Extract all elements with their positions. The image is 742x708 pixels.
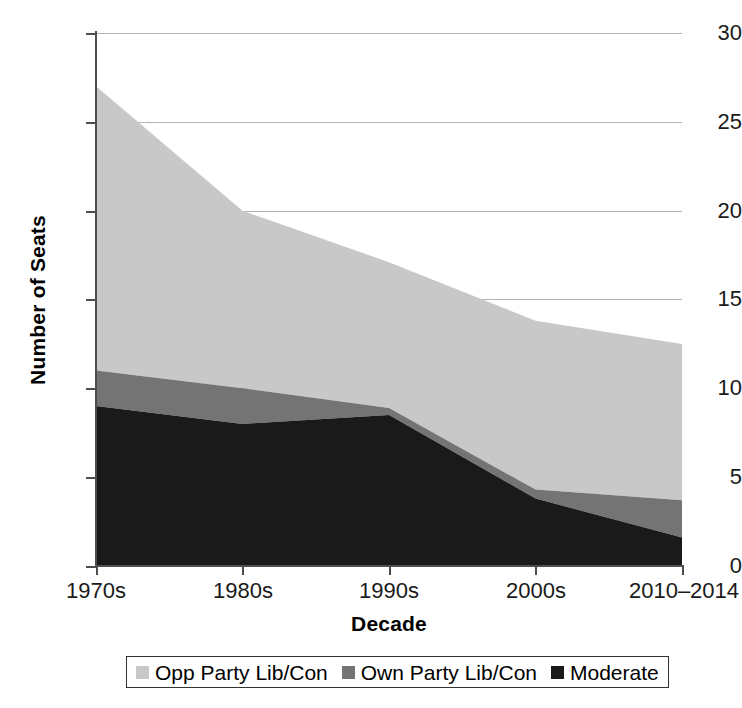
y-tick-mark-30 bbox=[86, 33, 96, 35]
x-tick-mark-1970s bbox=[96, 566, 98, 575]
legend-label-own-party-lib-con: Own Party Lib/Con bbox=[361, 662, 537, 683]
chart-legend: Opp Party Lib/Con Own Party Lib/Con Mode… bbox=[126, 656, 669, 688]
y-tick-label-10: 10 bbox=[664, 375, 742, 401]
y-tick-mark-25 bbox=[86, 122, 96, 124]
x-tick-mark-1980s bbox=[242, 566, 244, 575]
y-tick-label-15: 15 bbox=[664, 286, 742, 312]
legend-label-opp-party-lib-con: Opp Party Lib/Con bbox=[155, 662, 328, 683]
legend-label-moderate: Moderate bbox=[570, 662, 659, 683]
y-tick-label-20: 20 bbox=[664, 198, 742, 224]
y-axis-title: Number of Seats bbox=[26, 200, 50, 400]
legend-swatch-icon-opp-party-lib-con bbox=[136, 666, 149, 679]
area-chart-figure: Number of Seats 0 5 10 15 20 25 30 1970s… bbox=[0, 0, 742, 708]
x-axis-title: Decade bbox=[96, 612, 682, 636]
y-tick-mark-10 bbox=[86, 388, 96, 390]
x-tick-label-2010-2014: 2010–2014 bbox=[589, 578, 742, 604]
y-tick-label-25: 25 bbox=[664, 109, 742, 135]
plot-area bbox=[96, 33, 682, 566]
x-tick-mark-2000s bbox=[535, 566, 537, 575]
legend-item-opp-party-lib-con: Opp Party Lib/Con bbox=[136, 662, 328, 683]
y-tick-label-0: 0 bbox=[664, 553, 742, 579]
stacked-area-plot bbox=[96, 33, 682, 566]
y-tick-mark-15 bbox=[86, 299, 96, 301]
y-tick-mark-20 bbox=[86, 211, 96, 213]
y-tick-mark-0 bbox=[86, 566, 96, 568]
legend-item-own-party-lib-con: Own Party Lib/Con bbox=[342, 662, 537, 683]
legend-item-moderate: Moderate bbox=[551, 662, 659, 683]
y-tick-mark-5 bbox=[86, 477, 96, 479]
legend-swatch-icon-moderate bbox=[551, 666, 564, 679]
y-tick-label-5: 5 bbox=[664, 464, 742, 490]
y-tick-label-30: 30 bbox=[664, 20, 742, 46]
x-tick-mark-2010-2014 bbox=[682, 566, 684, 575]
legend-swatch-icon-own-party-lib-con bbox=[342, 666, 355, 679]
x-tick-mark-1990s bbox=[389, 566, 391, 575]
